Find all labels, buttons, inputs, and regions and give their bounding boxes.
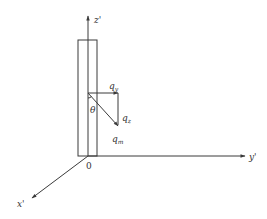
qz-label: qz [122, 113, 132, 124]
diagram-canvas: z' y' x' 0 qy qz qm θ [0, 0, 267, 219]
origin-label: 0 [86, 161, 92, 171]
force-diagram: z' y' x' 0 qy qz qm θ [0, 0, 267, 219]
z-axis-label: z' [93, 15, 101, 25]
x-axis-label: x' [17, 199, 25, 209]
x-axis [32, 156, 88, 198]
qy-label: qy [109, 81, 119, 93]
angle-arc [88, 97, 92, 99]
y-axis-label: y' [248, 152, 257, 162]
theta-label: θ [90, 105, 96, 115]
qm-label: qm [112, 134, 124, 145]
